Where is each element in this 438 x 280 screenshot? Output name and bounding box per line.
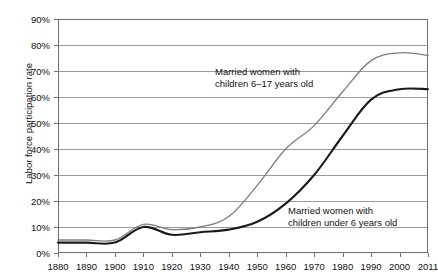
- annotation-under-six-line1: Married women with: [288, 205, 397, 217]
- annotation-older-children-line1: Married women with: [215, 66, 313, 78]
- annotation-under-six: Married women with children under 6 year…: [288, 205, 397, 228]
- annotation-older-children-line2: children 6–17 years old: [215, 78, 313, 90]
- series-lines: [0, 0, 438, 280]
- chart-figure: Labor force participation rate 0%10%20%3…: [0, 0, 438, 280]
- annotation-under-six-line2: children under 6 years old: [288, 217, 397, 229]
- annotation-older-children: Married women with children 6–17 years o…: [215, 66, 313, 89]
